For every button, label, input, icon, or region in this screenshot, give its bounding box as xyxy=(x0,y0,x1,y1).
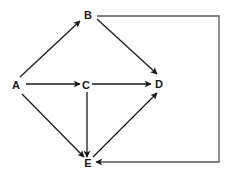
node-c: C xyxy=(82,79,90,91)
node-e: E xyxy=(84,157,91,169)
edge-b-to-d xyxy=(97,19,157,74)
edge-e-to-d xyxy=(93,93,157,157)
node-a: A xyxy=(12,79,20,91)
directed-graph-diagram: A B C D E xyxy=(0,0,229,178)
node-b: B xyxy=(84,9,92,21)
edge-a-to-b xyxy=(20,21,80,77)
edge-a-to-e xyxy=(22,94,84,157)
node-d: D xyxy=(155,78,163,90)
